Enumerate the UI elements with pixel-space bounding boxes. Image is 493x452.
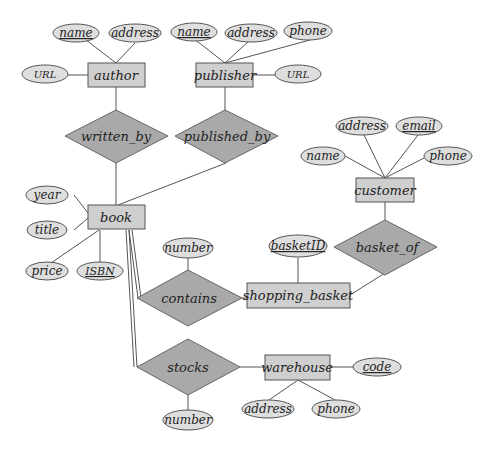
entity-customer[interactable]: customer: [354, 178, 416, 202]
attribute-author-name[interactable]: name: [53, 24, 99, 42]
attribute-warehouse-address[interactable]: address: [242, 400, 294, 418]
relationship-label: written_by: [81, 129, 152, 144]
attribute-label: name: [177, 25, 210, 39]
attribute-author-address[interactable]: address: [109, 24, 161, 42]
attribute-label: phone: [317, 402, 354, 416]
entity-label: author: [94, 68, 139, 83]
relationship-label: basket_of: [356, 240, 421, 255]
entity-label: book: [100, 210, 132, 225]
attribute-label: address: [338, 119, 386, 133]
attribute-customer-name[interactable]: name: [301, 147, 345, 165]
entity-label: customer: [354, 183, 416, 198]
entity-label: warehouse: [261, 360, 333, 375]
attribute-label: year: [33, 188, 62, 202]
attribute-label: URL: [34, 69, 57, 80]
attribute-customer-phone[interactable]: phone: [424, 147, 472, 165]
attribute-publisher-name[interactable]: name: [171, 23, 217, 41]
attribute-label: number: [164, 241, 213, 255]
relationship-written-by[interactable]: written_by: [65, 110, 168, 163]
attribute-publisher-url[interactable]: URL: [275, 65, 321, 83]
entity-shopping-basket[interactable]: shopping_basket: [243, 283, 354, 308]
relationship-published-by[interactable]: published_by: [175, 110, 278, 163]
attribute-label: title: [35, 223, 59, 237]
attribute-label: basketID: [271, 239, 326, 253]
attribute-label: address: [244, 402, 292, 416]
attribute-stocks-number[interactable]: number: [163, 410, 213, 430]
attribute-warehouse-phone[interactable]: phone: [312, 400, 360, 418]
relationship-basket-of[interactable]: basket_of: [334, 220, 437, 275]
attribute-book-price[interactable]: price: [26, 262, 68, 280]
attribute-label: number: [164, 413, 213, 427]
er-diagram: written_by published_by contains basket_…: [0, 0, 493, 452]
attribute-customer-address[interactable]: address: [336, 117, 388, 135]
entity-author[interactable]: author: [88, 63, 145, 87]
attribute-label: address: [111, 26, 159, 40]
attribute-label: email: [402, 119, 435, 133]
entity-book[interactable]: book: [88, 205, 145, 229]
attribute-label: ISBN: [84, 265, 115, 278]
relationship-label: contains: [161, 291, 217, 306]
attribute-label: phone: [429, 149, 466, 163]
attribute-customer-email[interactable]: email: [396, 117, 442, 135]
attribute-label: address: [227, 26, 275, 40]
attribute-label: phone: [289, 24, 326, 38]
attribute-contains-number[interactable]: number: [163, 238, 213, 258]
entity-publisher[interactable]: publisher: [194, 63, 257, 87]
entity-label: shopping_basket: [243, 288, 354, 303]
attribute-warehouse-code[interactable]: code: [353, 358, 401, 376]
entity-label: publisher: [194, 68, 257, 83]
attribute-basket-id[interactable]: basketID: [269, 235, 327, 257]
relationship-stocks[interactable]: stocks: [137, 339, 240, 395]
attribute-publisher-address[interactable]: address: [225, 24, 277, 42]
attribute-label: price: [31, 264, 62, 278]
attribute-book-isbn[interactable]: ISBN: [77, 262, 123, 280]
relationship-label: published_by: [184, 129, 271, 144]
attribute-label: code: [363, 360, 392, 374]
relationship-contains[interactable]: contains: [137, 270, 242, 326]
attribute-author-url[interactable]: URL: [22, 65, 68, 83]
attribute-label: name: [59, 26, 92, 40]
attribute-book-year[interactable]: year: [26, 186, 68, 204]
attribute-book-title[interactable]: title: [27, 221, 67, 239]
attribute-label: name: [306, 149, 339, 163]
entity-warehouse[interactable]: warehouse: [261, 355, 333, 380]
attribute-publisher-phone[interactable]: phone: [284, 22, 332, 40]
attribute-label: URL: [287, 69, 310, 80]
relationship-label: stocks: [167, 360, 209, 375]
